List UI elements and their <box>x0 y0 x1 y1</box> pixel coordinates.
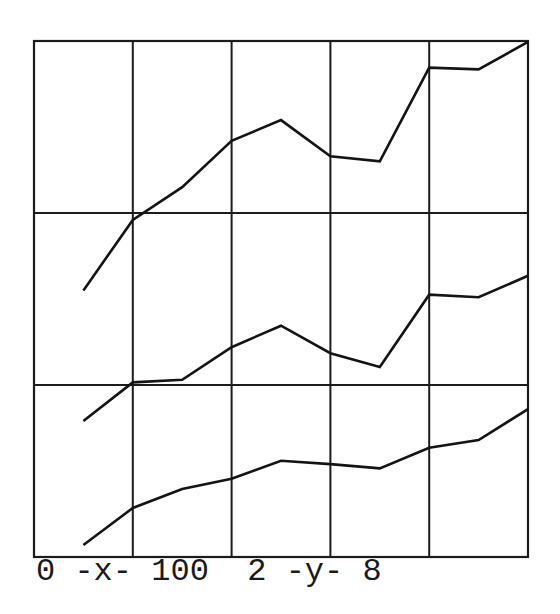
series-line-upper <box>83 42 528 291</box>
series-line-middle <box>83 276 528 421</box>
chart-series <box>83 42 528 545</box>
plot-frame <box>34 41 528 557</box>
axis-range-caption: 0 -x- 100 2 -y- 8 <box>36 554 382 590</box>
chart-grid <box>34 41 528 557</box>
series-line-lower <box>83 409 528 545</box>
line-chart <box>0 0 560 614</box>
